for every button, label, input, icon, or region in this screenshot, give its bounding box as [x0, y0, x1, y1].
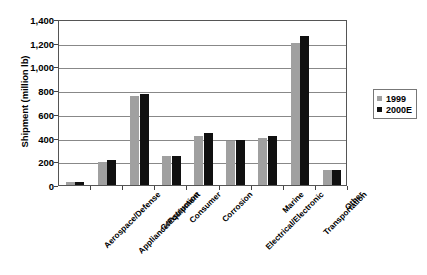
bar[interactable]	[291, 43, 300, 185]
y-axis-tick-labels: 02004006008001,0001,2001,400	[0, 20, 54, 186]
bar-group	[226, 21, 245, 185]
y-tick-label: 1,200	[2, 38, 54, 49]
y-tick-label: 600	[2, 109, 54, 120]
bar-chart: Shipment (million lb) 02004006008001,000…	[0, 0, 427, 275]
bar[interactable]	[268, 136, 277, 185]
bar[interactable]	[226, 141, 235, 185]
legend-swatch-icon	[377, 96, 382, 101]
legend-item-1999[interactable]: 1999	[377, 93, 412, 104]
y-tick-label: 400	[2, 133, 54, 144]
bar[interactable]	[98, 162, 107, 185]
bar-group	[258, 21, 277, 185]
bar-group	[162, 21, 181, 185]
legend-swatch-icon	[377, 107, 382, 112]
bars-layer	[59, 21, 346, 185]
bar[interactable]	[162, 156, 171, 185]
legend-item-2000e[interactable]: 2000E	[377, 104, 412, 115]
bar[interactable]	[258, 138, 267, 185]
legend-label: 2000E	[386, 105, 412, 115]
bar-group	[194, 21, 213, 185]
bar[interactable]	[194, 136, 203, 185]
bar[interactable]	[107, 160, 116, 185]
bar[interactable]	[300, 36, 309, 185]
y-tick-label: 1,000	[2, 62, 54, 73]
bar[interactable]	[66, 182, 75, 185]
bar[interactable]	[140, 94, 149, 185]
bar[interactable]	[236, 140, 245, 185]
bar-group	[130, 21, 149, 185]
bar[interactable]	[323, 170, 332, 185]
bar[interactable]	[204, 133, 213, 185]
bar-group	[98, 21, 117, 185]
bar-group	[291, 21, 310, 185]
legend-label: 1999	[386, 94, 406, 104]
bar[interactable]	[75, 182, 84, 185]
x-axis-category-labels: Aerospace/DefenseAppliance/EquipmentCons…	[0, 188, 427, 275]
bar-group	[323, 21, 342, 185]
bar[interactable]	[172, 156, 181, 185]
y-tick-label: 1,400	[2, 15, 54, 26]
legend: 1999 2000E	[373, 89, 417, 119]
x-axis-label: Corrosion	[220, 190, 254, 224]
bar[interactable]	[332, 170, 341, 185]
bar[interactable]	[130, 96, 139, 185]
y-tick-label: 200	[2, 157, 54, 168]
y-tick-label: 800	[2, 86, 54, 97]
bar-group	[66, 21, 85, 185]
